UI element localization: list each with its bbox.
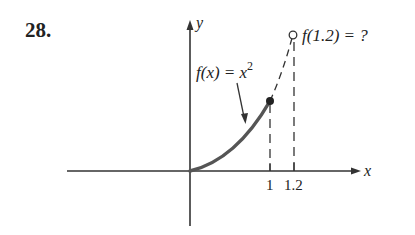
function-label-text: f(x) = x [196,63,248,82]
tick-label-1-2: 1.2 [284,177,303,193]
pointer-arrow [237,83,248,124]
function-curve [190,101,270,171]
filled-point [266,97,274,105]
function-label: f(x) = x2 [196,59,253,82]
graph: y x 1 1.2 f(x) = x2 f(1.2) = ? [0,0,415,235]
y-axis-label: y [194,14,204,32]
tick-label-1: 1 [266,177,274,193]
extrapolation-dashed-curve [270,38,292,101]
function-label-exponent: 2 [247,59,253,73]
question-label: f(1.2) = ? [302,26,368,45]
open-point [289,31,297,39]
x-axis [67,168,361,175]
y-axis [187,20,194,226]
x-axis-label: x [363,162,371,179]
